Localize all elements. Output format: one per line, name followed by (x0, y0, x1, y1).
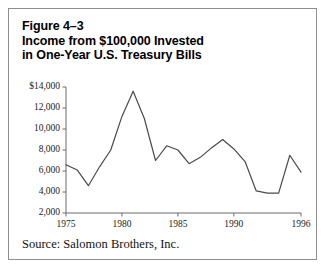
chart-axes (66, 87, 301, 213)
source-note: Source: Salomon Brothers, Inc. (22, 237, 179, 252)
figure-container: Figure 4–3 Income from $100,000 Invested… (8, 8, 317, 260)
x-axis-tick-label: 1975 (46, 219, 86, 229)
x-axis-tick-label: 1985 (158, 219, 198, 229)
chart-plot-area: $14,00012,00010,0008,0006,0004,0002,000 … (9, 9, 317, 260)
treasury-bill-income-line (66, 91, 301, 193)
y-axis-tick-label: 8,000 (12, 144, 60, 154)
x-axis-tick-label: 1996 (281, 219, 317, 229)
y-axis-tick-label: 12,000 (12, 102, 60, 112)
y-axis-tick-label: $14,000 (12, 81, 60, 91)
y-axis-tick-label: 2,000 (12, 207, 60, 217)
chart-tick-marks (63, 87, 302, 217)
x-axis-tick-label: 1980 (102, 219, 142, 229)
y-axis-tick-label: 10,000 (12, 123, 60, 133)
y-axis-tick-label: 6,000 (12, 165, 60, 175)
x-axis-tick-label: 1990 (214, 219, 254, 229)
y-axis-tick-label: 4,000 (12, 186, 60, 196)
